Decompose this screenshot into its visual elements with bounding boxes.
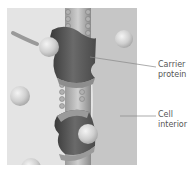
carrier-protein-illustration [7, 8, 137, 165]
cell-interior-leader-line [120, 114, 158, 118]
label-carrier-protein-line1: Carrier [158, 60, 186, 70]
carrier-protein-leader-line [90, 55, 158, 69]
label-cell-interior-line2: interior [158, 120, 187, 130]
label-cell-interior-line1: Cell [158, 110, 187, 120]
label-carrier-protein-line2: protein [158, 70, 186, 80]
label-cell-interior: Cell interior [158, 110, 187, 130]
label-carrier-protein: Carrier protein [158, 60, 186, 80]
